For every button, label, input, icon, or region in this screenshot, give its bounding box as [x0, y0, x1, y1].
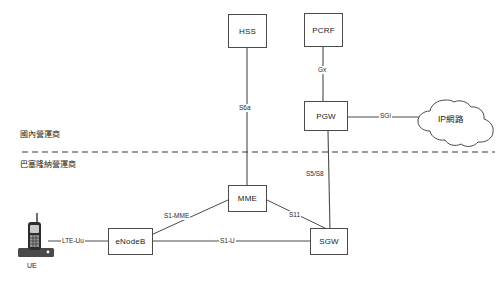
node-enodeb[interactable]: eNodeB: [108, 228, 153, 255]
link-label-lte-uu: LTE-Uu: [61, 237, 85, 245]
link-pgw-sgw: [328, 131, 330, 230]
link-label-sgi: SGi: [379, 112, 392, 120]
node-pgw-label: PGW: [316, 112, 336, 121]
node-ue-label: UE: [27, 262, 37, 269]
link-label-s5-s8: S5/S8: [305, 170, 325, 178]
link-label-s1-u: S1-U: [219, 237, 236, 245]
node-hss-label: HSS: [239, 27, 256, 36]
link-label-s11: S11: [288, 211, 301, 219]
zone-label-domestic: 國內營運商: [20, 128, 60, 139]
link-label-s6a: S6a: [238, 104, 252, 112]
network-diagram-canvas: HSS PCRF PGW MME SGW eNodeB IP網路 UE S6a …: [0, 0, 503, 281]
node-mme-label: MME: [238, 194, 257, 203]
node-pgw[interactable]: PGW: [304, 101, 348, 131]
node-pcrf-label: PCRF: [312, 26, 335, 35]
link-label-s1-mme: S1-MME: [163, 212, 190, 220]
node-ipnet-label: IP網路: [438, 112, 464, 124]
ue-handset-icon: [18, 213, 54, 257]
node-hss[interactable]: HSS: [228, 14, 267, 48]
node-sgw[interactable]: SGW: [310, 228, 348, 255]
node-enodeb-label: eNodeB: [115, 237, 145, 246]
link-label-gx: Gx: [317, 66, 327, 74]
node-mme[interactable]: MME: [228, 185, 267, 212]
node-pcrf[interactable]: PCRF: [304, 13, 343, 47]
zone-label-barcelona: 巴塞隆納營運商: [20, 158, 76, 169]
node-sgw-label: SGW: [319, 237, 339, 246]
